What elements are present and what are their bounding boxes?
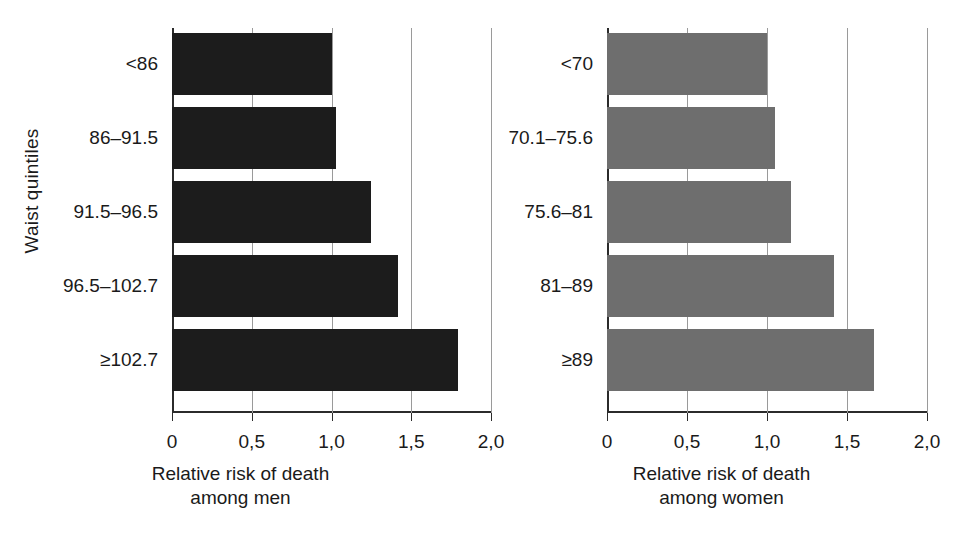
x-axis-title-line1: Relative risk of death (481, 462, 962, 486)
caption-remnant (0, 536, 963, 549)
x-tick-label: 1,5 (834, 431, 860, 453)
bar (172, 255, 398, 317)
category-label: ≥102.7 (100, 349, 158, 371)
x-axis-title-line2: among women (481, 486, 962, 510)
category-label: 70.1–75.6 (508, 127, 593, 149)
bar-row: 86–91.5 (172, 107, 491, 169)
plot-area-men: 00,51,01,52,0 <8686–91.591.5–96.596.5–10… (172, 33, 491, 413)
category-label: 86–91.5 (89, 127, 158, 149)
bar-row: <86 (172, 33, 491, 95)
category-label: ≥89 (561, 349, 593, 371)
category-label: 81–89 (540, 275, 593, 297)
bar (172, 329, 458, 391)
x-tick-label: 2,0 (914, 431, 940, 453)
category-label: 91.5–96.5 (73, 201, 158, 223)
bar-row: 81–89 (607, 255, 927, 317)
x-tick (847, 413, 848, 421)
x-tick-label: 0 (602, 431, 613, 453)
x-tick (172, 413, 173, 421)
x-axis-title-women: Relative risk of death among women (481, 462, 962, 510)
x-tick (411, 413, 412, 421)
x-tick (252, 413, 253, 421)
figure: Waist quintiles 00,51,01,52,0 <8686–91.5… (0, 0, 963, 549)
bar (607, 329, 874, 391)
x-tick (687, 413, 688, 421)
bar (607, 255, 834, 317)
x-tick-label: 1,5 (398, 431, 424, 453)
x-tick (927, 413, 928, 421)
chart-panel-women: 00,51,01,52,0 <7070.1–75.675.6–8181–89≥8… (481, 0, 962, 549)
bar (172, 181, 371, 243)
bar (172, 107, 336, 169)
x-axis-title-line2: among men (0, 486, 481, 510)
category-label: <86 (126, 53, 158, 75)
plot-area-women: 00,51,01,52,0 <7070.1–75.675.6–8181–89≥8… (607, 33, 927, 413)
bar-row: 70.1–75.6 (607, 107, 927, 169)
x-tick-label: 0 (167, 431, 178, 453)
bar-row: 91.5–96.5 (172, 181, 491, 243)
category-label: 96.5–102.7 (63, 275, 158, 297)
x-tick (767, 413, 768, 421)
category-label: 75.6–81 (524, 201, 593, 223)
x-tick-label: 0,5 (674, 431, 700, 453)
x-tick (607, 413, 608, 421)
bar (172, 33, 332, 95)
y-axis-title: Waist quintiles (21, 101, 43, 281)
bar (607, 107, 775, 169)
bar-row: ≥89 (607, 329, 927, 391)
category-label: <70 (561, 53, 593, 75)
x-axis-title-men: Relative risk of death among men (0, 462, 481, 510)
x-tick-label: 0,5 (239, 431, 265, 453)
bar (607, 181, 791, 243)
bar (607, 33, 767, 95)
bar-row: ≥102.7 (172, 329, 491, 391)
x-tick-label: 1,0 (318, 431, 344, 453)
x-tick-label: 1,0 (754, 431, 780, 453)
gridline (927, 28, 928, 413)
bar-row: 75.6–81 (607, 181, 927, 243)
bar-row: 96.5–102.7 (172, 255, 491, 317)
x-axis-title-line1: Relative risk of death (0, 462, 481, 486)
bar-row: <70 (607, 33, 927, 95)
x-tick (332, 413, 333, 421)
chart-panel-men: Waist quintiles 00,51,01,52,0 <8686–91.5… (0, 0, 481, 549)
